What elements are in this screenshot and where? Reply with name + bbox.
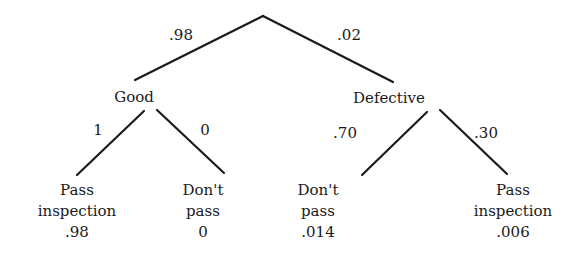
- prob-defective-pass: .30: [474, 123, 498, 143]
- leaf-good-pass: Pass inspection .98: [38, 180, 117, 243]
- leaf-outcome-line2: inspection: [474, 201, 553, 222]
- leaf-outcome-line2: inspection: [38, 201, 117, 222]
- prob-good-pass: 1: [93, 120, 103, 140]
- leaf-outcome-line1: Pass: [474, 180, 553, 201]
- prob-defective-dontpass: .70: [333, 123, 357, 143]
- prob-good-dontpass: 0: [200, 120, 210, 140]
- leaf-outcome-line2: pass: [298, 201, 339, 222]
- prob-good: .98: [169, 25, 193, 45]
- leaf-outcome-line1: Pass: [38, 180, 117, 201]
- leaf-joint-probability: .014: [298, 222, 339, 243]
- leaf-good-dontpass: Don't pass 0: [183, 180, 224, 243]
- leaf-outcome-line2: pass: [183, 201, 224, 222]
- leaf-defective-pass: Pass inspection .006: [474, 180, 553, 243]
- leaf-joint-probability: .006: [474, 222, 553, 243]
- leaf-outcome-line1: Don't: [298, 180, 339, 201]
- edge-good-dontpass: [157, 110, 224, 173]
- leaf-joint-probability: .98: [38, 222, 117, 243]
- edge-good-pass: [77, 111, 144, 175]
- edge-defective-dontpass: [362, 112, 427, 175]
- node-defective: Defective: [353, 88, 425, 108]
- leaf-outcome-line1: Don't: [183, 180, 224, 201]
- edge-root-good: [135, 16, 263, 80]
- prob-defective: .02: [337, 25, 361, 45]
- edge-root-defective: [263, 16, 393, 82]
- node-good: Good: [114, 87, 154, 107]
- leaf-joint-probability: 0: [183, 222, 224, 243]
- leaf-defective-dontpass: Don't pass .014: [298, 180, 339, 243]
